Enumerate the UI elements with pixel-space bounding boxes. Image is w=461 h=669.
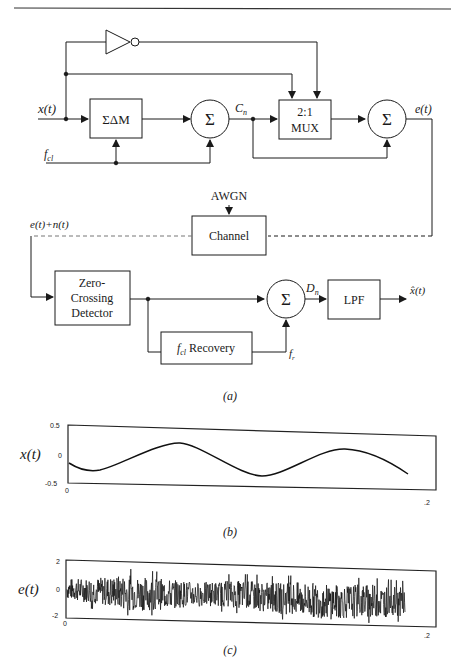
received-signal-label: e(t)+n(t) [30, 218, 69, 231]
plot-b-ytick-bottom: -0.5 [45, 480, 57, 487]
plot-c-ylabel: e(t) [18, 581, 39, 598]
caption-b: (b) [223, 525, 237, 539]
plot-b-ylabel: x(t) [19, 446, 41, 463]
plot-b: x(t) 0.5 0 -0.5 0 .2 (b) [19, 422, 436, 539]
plot-b-ytick-top: 0.5 [50, 422, 60, 429]
et-label: e(t) [415, 102, 432, 116]
mux-line1: 2:1 [297, 105, 312, 119]
cn-label: Cn [235, 101, 247, 117]
channel-block: Channel [209, 229, 250, 243]
output-label: x̂(t) [409, 284, 426, 297]
plot-c-ytick-top: 2 [56, 558, 60, 565]
plot-c-ytick-mid: 0 [56, 586, 60, 593]
caption-c: (c) [223, 643, 236, 657]
mux-line2: MUX [291, 121, 319, 135]
fcl-label: fcl [44, 147, 54, 163]
fr-label: fr [289, 347, 295, 362]
plot-c-xtick-start: 0 [63, 620, 67, 627]
dn-label: Dn [305, 281, 319, 297]
plot-b-xtick-end: .2 [424, 499, 430, 506]
x-t-curve [69, 443, 408, 476]
sum2-block: Σ [382, 110, 392, 129]
plot-c-xtick-end: .2 [424, 632, 430, 639]
sum3-block: Σ [281, 290, 291, 309]
zcd-line2: Crossing [71, 291, 114, 305]
header-rule [14, 8, 451, 9]
lpf-block: LPF [344, 293, 365, 307]
awgn-label: AWGN [211, 189, 248, 203]
plot-c: e(t) 2 0 -2 0 .2 (c) [18, 558, 436, 657]
zcd-line3: Detector [71, 306, 112, 320]
e-t-noise-signal [67, 569, 405, 623]
sdm-block: ΣΔM [102, 112, 130, 127]
plot-c-ytick-bottom: -2 [52, 612, 58, 619]
plot-b-ytick-mid: 0 [58, 452, 62, 459]
zcd-line1: Zero- [79, 276, 106, 290]
caption-a: (a) [223, 389, 237, 403]
sum1-block: Σ [205, 110, 215, 129]
input-x-label: x(t) [37, 101, 56, 116]
recovery-block: fcl Recovery [177, 341, 235, 357]
figure-canvas: x(t) fcl ΣΔM Σ Cn 2:1 MUX Σ e(t) AWGN Ch… [0, 0, 461, 669]
plot-b-xtick-start: 0 [65, 487, 69, 494]
